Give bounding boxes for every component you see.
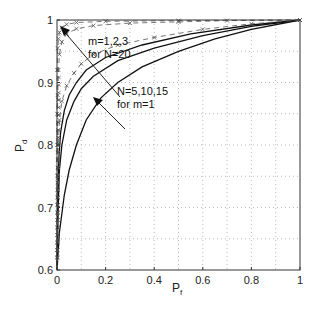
annotation-n-line1: N=5,10,15 xyxy=(117,85,168,97)
svg-text:0.8: 0.8 xyxy=(38,139,53,151)
svg-text:0.8: 0.8 xyxy=(244,274,259,286)
svg-text:1: 1 xyxy=(47,14,53,26)
svg-text:P: P xyxy=(172,281,180,295)
svg-text:d: d xyxy=(20,140,29,144)
svg-text:1: 1 xyxy=(297,274,303,286)
svg-text:0.7: 0.7 xyxy=(38,202,53,214)
svg-text:0.4: 0.4 xyxy=(147,274,162,286)
roc-chart: 00.20.40.60.810.60.70.80.91 m=1,2,3 for … xyxy=(0,0,316,311)
annotation-n-line2: for m=1 xyxy=(117,98,155,110)
x-axis-label: P f xyxy=(172,281,183,297)
svg-text:0.6: 0.6 xyxy=(38,264,53,276)
svg-text:P: P xyxy=(13,144,27,152)
annotation-m-line2: for N=20 xyxy=(88,48,131,60)
annotation-m-line1: m=1,2,3 xyxy=(88,35,128,47)
svg-text:0: 0 xyxy=(54,274,60,286)
svg-text:0.6: 0.6 xyxy=(195,274,210,286)
svg-text:0.2: 0.2 xyxy=(98,274,113,286)
svg-text:0.9: 0.9 xyxy=(38,77,53,89)
y-axis-label: P d xyxy=(13,140,29,152)
svg-text:f: f xyxy=(180,288,183,297)
